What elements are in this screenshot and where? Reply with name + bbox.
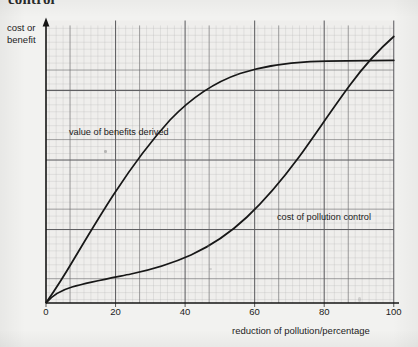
chart-plot-area — [0, 0, 418, 347]
figure-page: control — [0, 0, 418, 347]
annotation-cost-of-pollution-control: cost of pollution control — [277, 212, 371, 222]
scan-speck — [104, 150, 107, 153]
major-gridlines — [46, 25, 394, 303]
x-tick-label-20: 20 — [110, 306, 121, 317]
y-axis-label-line1: cost or — [7, 22, 36, 34]
x-axis-label: reduction of pollution/percentage — [232, 325, 370, 337]
scan-speck — [207, 245, 210, 247]
x-tick-label-0: 0 — [43, 306, 48, 317]
annotation-value-of-benefits-derived: value of benefits derived — [69, 127, 169, 137]
scan-speck — [234, 72, 238, 75]
x-tick-label-100: 100 — [386, 306, 402, 317]
x-tick-label-80: 80 — [319, 306, 330, 317]
scan-speck — [358, 297, 361, 302]
y-axis-label-line2: benefit — [7, 34, 36, 46]
x-tick-label-40: 40 — [180, 306, 191, 317]
y-axis-label: cost or benefit — [7, 22, 36, 45]
x-tick-label-60: 60 — [249, 306, 260, 317]
scan-speck — [209, 268, 212, 270]
